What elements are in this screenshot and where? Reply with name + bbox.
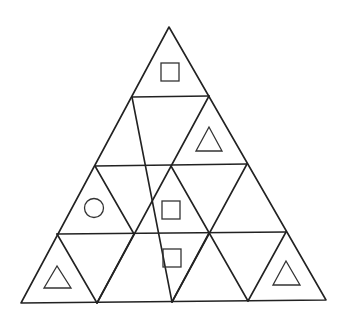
diagonal-line-1	[132, 97, 172, 302]
triangle-icon	[196, 127, 222, 151]
diagonal-line-6	[248, 232, 286, 301]
diagonal-line-3	[57, 234, 97, 303]
square-icon	[161, 63, 179, 81]
diagonal-line-9	[97, 234, 134, 303]
triangle-icon	[273, 261, 300, 285]
triangle-grid	[0, 0, 346, 322]
grid-lines	[21, 27, 326, 303]
triangle-puzzle-diagram	[0, 0, 346, 322]
horizontal-line-1	[132, 96, 209, 97]
circle-icon	[85, 199, 104, 218]
square-icon	[163, 249, 181, 267]
horizontal-line-3	[57, 232, 286, 234]
square-icon	[162, 201, 180, 219]
triangle-icon	[44, 266, 71, 288]
diagonal-line-2	[95, 166, 134, 234]
